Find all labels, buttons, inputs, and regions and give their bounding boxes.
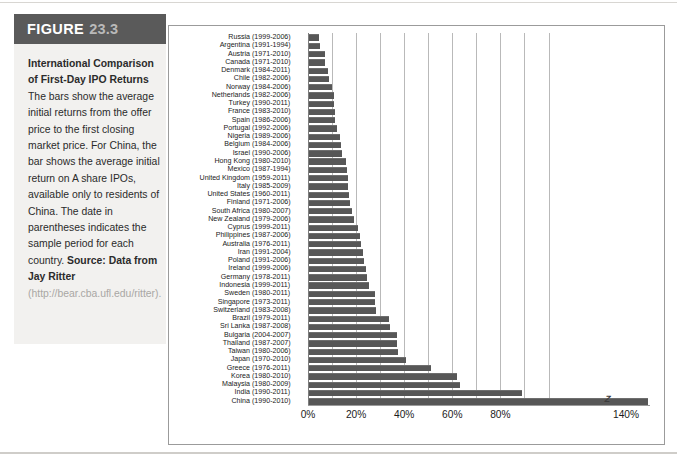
bar <box>309 34 319 40</box>
category-label: India(1990-2011) <box>169 388 308 396</box>
caption-body: International Comparison of First-Day IP… <box>28 56 160 302</box>
category-label: New Zealand(1979-2006) <box>169 215 308 223</box>
country-name: Cyprus <box>228 223 250 231</box>
category-label: Cyprus(1999-2011) <box>169 223 308 231</box>
country-name: United Kingdom <box>200 174 250 182</box>
bar <box>309 183 348 189</box>
bar <box>309 332 397 338</box>
sample-period: (1980-2011) <box>252 289 290 297</box>
sample-period: (1971-2010) <box>252 50 291 58</box>
bar <box>309 192 349 198</box>
country-name: Spain <box>232 116 250 124</box>
sample-period: (1978-2011) <box>252 273 290 281</box>
figure-description: The bars show the average initial return… <box>28 91 160 266</box>
bar <box>309 291 375 297</box>
bar <box>309 167 347 173</box>
bar <box>309 357 406 363</box>
country-name: Brazil <box>232 314 250 322</box>
bar <box>309 225 358 231</box>
country-name: Ireland <box>228 264 250 272</box>
sample-period: (1973-2011) <box>252 298 290 306</box>
bar <box>309 233 360 239</box>
category-label: Spain(1986-2006) <box>169 116 308 124</box>
category-label: France(1983-2010) <box>169 107 308 115</box>
category-label: United States(1960-2011) <box>169 190 308 198</box>
category-label: Belgium(1984-2006) <box>169 140 308 148</box>
gridline <box>476 33 477 405</box>
sample-period: (1987-2008) <box>252 322 291 330</box>
gridline <box>428 33 429 405</box>
figure-banner-number: 23.3 <box>89 21 118 37</box>
country-name: Hong Kong <box>215 157 251 165</box>
sample-period: (1970-2010) <box>252 355 291 363</box>
country-name: India <box>235 388 250 396</box>
category-label: Italy(1985-2009) <box>169 182 308 190</box>
category-label: Russia(1999-2006) <box>169 33 308 41</box>
sample-period: (1982-2006) <box>252 74 291 82</box>
sample-period: (1980-2009) <box>252 380 291 388</box>
sample-period: (1984-2011) <box>252 66 290 74</box>
sample-period: (1983-2008) <box>252 306 291 314</box>
sample-period: (1990-2011) <box>252 388 290 396</box>
category-label: Mexico(1987-1994) <box>169 165 308 173</box>
sample-period: (1990-2006) <box>252 149 291 157</box>
bar <box>309 299 375 305</box>
bar <box>309 258 364 264</box>
plot-area: Z <box>308 33 650 405</box>
bar <box>309 142 341 148</box>
country-name: Thailand <box>223 339 250 347</box>
sample-period: (1980-2006) <box>252 347 291 355</box>
sample-period: (1971-2006) <box>252 198 291 206</box>
category-label: Australia(1976-2011) <box>169 240 308 248</box>
bar <box>309 158 346 164</box>
sample-period: (1999-2006) <box>252 264 291 272</box>
bar <box>309 307 376 313</box>
country-name: Denmark <box>221 66 250 74</box>
bar <box>309 175 348 181</box>
sample-period: (1980-2010) <box>252 372 291 380</box>
country-name: Turkey <box>229 99 250 107</box>
country-name: Italy <box>237 182 250 190</box>
category-label: Finland(1971-2006) <box>169 198 308 206</box>
bar <box>309 349 398 355</box>
sample-period: (1979-2006) <box>252 215 291 223</box>
sample-period: (1983-2010) <box>252 107 291 115</box>
country-name: Malaysia <box>222 380 250 388</box>
bar <box>309 216 354 222</box>
category-label: Greece(1976-2011) <box>169 364 308 372</box>
country-name: China <box>231 397 250 405</box>
country-name: Mexico <box>228 165 250 173</box>
country-name: Austria <box>228 50 250 58</box>
country-name: United States <box>207 190 250 198</box>
bar <box>309 282 369 288</box>
country-name: Russia <box>228 33 250 41</box>
country-name: South Africa <box>212 207 250 215</box>
category-label-column: Russia(1999-2006)Argentina(1991-1994)Aus… <box>169 33 308 405</box>
gridline <box>549 33 550 405</box>
category-label: Poland(1991-2006) <box>169 256 308 264</box>
category-label: Indonesia(1999-2011) <box>169 281 308 289</box>
country-name: Bulgaria <box>224 331 250 339</box>
bar <box>309 241 361 247</box>
gridline <box>452 33 453 405</box>
sample-period: (1991-2004) <box>252 248 291 256</box>
country-name: Switzerland <box>213 306 250 314</box>
country-name: Iran <box>238 248 250 256</box>
category-label: Hong Kong(1980-2010) <box>169 157 308 165</box>
category-label: Nigeria(1989-2006) <box>169 132 308 140</box>
x-tick-label: 60% <box>442 409 462 420</box>
country-name: Singapore <box>218 298 250 306</box>
country-name: Sweden <box>224 289 250 297</box>
country-name: Germany <box>221 273 250 281</box>
category-label: Norway(1984-2006) <box>169 83 308 91</box>
country-name: Canada <box>225 58 250 66</box>
sample-period: (1991-2006) <box>252 256 291 264</box>
country-name: Israel <box>233 149 250 157</box>
chart-frame: Russia(1999-2006)Argentina(1991-1994)Aus… <box>168 25 665 445</box>
category-label: Ireland(1999-2006) <box>169 264 308 272</box>
x-tick-label: 20% <box>346 409 366 420</box>
country-name: Australia <box>222 240 250 248</box>
figure-banner-word: FIGURE <box>27 21 84 37</box>
bar <box>309 266 366 272</box>
bottom-rule <box>0 452 677 454</box>
